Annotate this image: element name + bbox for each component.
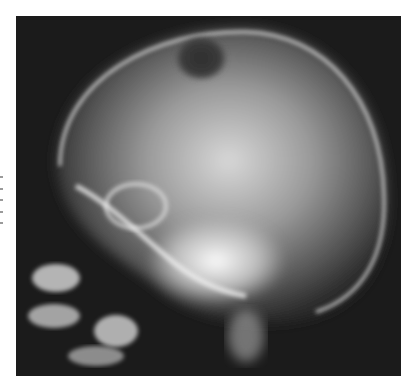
cropped-margin-text (0, 176, 6, 224)
xray-illustration (16, 16, 401, 376)
skull-xray-image (16, 16, 401, 376)
